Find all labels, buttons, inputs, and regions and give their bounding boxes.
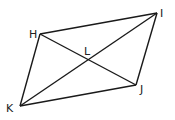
side-JK	[20, 85, 136, 106]
diagonal-IK	[20, 13, 157, 106]
side-HI	[40, 13, 157, 34]
label-H: H	[29, 28, 37, 41]
side-IJ	[136, 13, 157, 85]
label-I: I	[160, 7, 163, 20]
label-K: K	[6, 102, 14, 115]
parallelogram-diagram: H I J K L	[0, 0, 175, 120]
label-J: J	[139, 83, 143, 96]
label-L: L	[84, 45, 91, 58]
